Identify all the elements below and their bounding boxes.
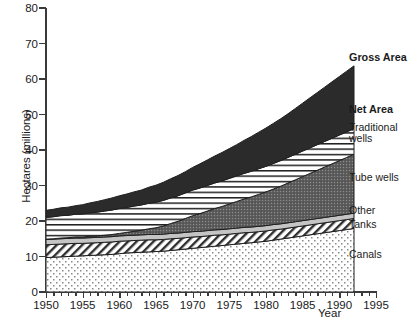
x-tick-1986: [310, 292, 311, 296]
x-tick-1966: [163, 292, 164, 296]
x-tick-label-1985: 1985: [283, 299, 323, 311]
legend-gross-area: Gross Area: [349, 52, 407, 64]
x-tick-1995: [376, 292, 377, 298]
x-tick-1958: [105, 292, 106, 296]
y-tick-30: [39, 185, 46, 186]
x-tick-1954: [75, 292, 76, 296]
x-tick-label-1995: 1995: [356, 299, 396, 311]
x-tick-1981: [273, 292, 274, 296]
x-tick-label-1955: 1955: [63, 299, 103, 311]
x-tick-1961: [127, 292, 128, 296]
x-tick-label-1970: 1970: [173, 299, 213, 311]
x-tick-1968: [178, 292, 179, 296]
y-tick-50: [39, 114, 46, 115]
x-tick-1985: [303, 292, 304, 298]
y-tick-60: [39, 78, 46, 79]
y-tick-70: [39, 43, 46, 44]
x-tick-1970: [193, 292, 194, 298]
x-tick-1993: [361, 292, 362, 296]
y-tick-label-40: 40: [0, 144, 38, 156]
x-tick-1957: [97, 292, 98, 296]
stacked-area-svg: [46, 8, 376, 292]
y-tick-label-0: 0: [0, 286, 38, 298]
x-tick-1976: [237, 292, 238, 296]
x-tick-1988: [325, 292, 326, 296]
x-tick-1965: [156, 292, 157, 298]
x-tick-1975: [229, 292, 230, 298]
y-tick-20: [39, 220, 46, 221]
y-tick-label-20: 20: [0, 215, 38, 227]
area-chart: Hectares (millions) 01020304050607080 19…: [0, 0, 415, 330]
x-tick-1953: [68, 292, 69, 296]
y-tick-label-60: 60: [0, 73, 38, 85]
x-tick-1992: [354, 292, 355, 296]
x-tick-1971: [200, 292, 201, 296]
y-tick-label-70: 70: [0, 38, 38, 50]
x-tick-1994: [369, 292, 370, 296]
x-axis-title: Year: [318, 307, 341, 319]
x-tick-1951: [53, 292, 54, 296]
x-tick-1989: [332, 292, 333, 296]
legend-traditional-wells-line2: wells: [349, 133, 372, 145]
legend-tube-wells: Tube wells: [349, 172, 399, 184]
y-tick-10: [39, 256, 46, 257]
x-tick-label-1960: 1960: [99, 299, 139, 311]
legend-canals: Canals: [349, 249, 382, 261]
x-tick-1978: [251, 292, 252, 296]
legend-tanks: Tanks: [349, 219, 376, 231]
y-tick-80: [39, 7, 46, 8]
x-tick-1950: [46, 292, 47, 298]
x-tick-label-1975: 1975: [209, 299, 249, 311]
x-tick-1987: [317, 292, 318, 296]
x-tick-1952: [61, 292, 62, 296]
x-tick-1964: [149, 292, 150, 296]
x-tick-1959: [112, 292, 113, 296]
x-tick-1955: [83, 292, 84, 298]
legend-other: Other: [349, 205, 375, 217]
x-tick-1983: [288, 292, 289, 296]
x-tick-1967: [171, 292, 172, 296]
y-tick-0: [39, 291, 46, 292]
x-tick-label-1950: 1950: [26, 299, 66, 311]
legend-net-area: Net Area: [349, 104, 393, 116]
y-tick-label-50: 50: [0, 109, 38, 121]
x-tick-1990: [339, 292, 340, 298]
plot-area: [46, 8, 376, 292]
x-tick-1982: [281, 292, 282, 296]
x-tick-1962: [134, 292, 135, 296]
x-tick-1980: [266, 292, 267, 298]
x-tick-1979: [259, 292, 260, 296]
x-tick-1963: [141, 292, 142, 296]
y-tick-label-80: 80: [0, 2, 38, 14]
x-tick-label-1965: 1965: [136, 299, 176, 311]
x-tick-1960: [119, 292, 120, 298]
x-tick-1984: [295, 292, 296, 296]
x-tick-1973: [215, 292, 216, 296]
x-tick-label-1980: 1980: [246, 299, 286, 311]
x-tick-1969: [185, 292, 186, 296]
x-tick-1977: [244, 292, 245, 296]
y-tick-label-10: 10: [0, 251, 38, 263]
y-tick-40: [39, 149, 46, 150]
x-tick-1956: [90, 292, 91, 296]
y-tick-label-30: 30: [0, 180, 38, 192]
x-tick-1974: [222, 292, 223, 296]
x-tick-1991: [347, 292, 348, 296]
x-tick-1972: [207, 292, 208, 296]
